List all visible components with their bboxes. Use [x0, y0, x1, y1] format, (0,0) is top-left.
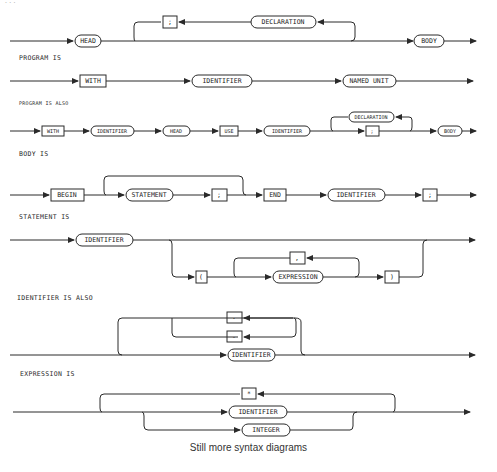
node-label: ;: [428, 191, 432, 199]
node-label: EXPRESSION: [278, 273, 317, 281]
node-label: DECLARATION: [354, 114, 387, 120]
node-label: -: [232, 333, 236, 341]
node-label: DECLARATION: [261, 18, 304, 26]
node-label: BEGIN: [57, 191, 77, 199]
node-label: *: [247, 390, 251, 398]
node-label: ,: [295, 254, 299, 262]
node-label: HEAD: [170, 128, 182, 134]
node-label: .: [232, 313, 236, 321]
node-label: IDENTIFIER: [272, 128, 303, 134]
node-label: ;: [217, 191, 221, 199]
diagram-canvas: HEAD ; DECLARATION BODY WITH IDENTIFIER …: [0, 0, 497, 472]
node-label: IDENTIFIER: [238, 408, 277, 416]
node-label: (: [199, 273, 203, 281]
node-label: ): [390, 273, 394, 281]
node-label: BODY: [421, 37, 437, 45]
node-label: IDENTIFIER: [84, 236, 123, 244]
node-label: WITH: [85, 77, 101, 85]
node-label: IDENTIFIER: [97, 128, 128, 134]
node-label: WITH: [47, 128, 59, 134]
node-label: END: [269, 191, 281, 199]
node-label: IDENTIFIER: [202, 77, 241, 85]
syntax-diagrams-figure: HEAD ; DECLARATION BODY WITH IDENTIFIER …: [0, 0, 497, 472]
node-label: HEAD: [80, 37, 96, 45]
node-label: STATEMENT: [131, 191, 166, 199]
heading-identifier-is-also: IDENTIFIER IS ALSO: [17, 294, 93, 302]
heading-program-is-also: PROGRAM IS ALSO: [19, 100, 69, 106]
cutoff-label: ...: [4, 0, 17, 5]
node-label: IDENTIFIER: [336, 191, 375, 199]
diagram-4-statement-is: [10, 234, 475, 283]
node-label: ;: [168, 18, 172, 26]
heading-program-is: PROGRAM IS: [19, 54, 61, 62]
heading-expression-is: EXPRESSION IS: [20, 370, 75, 378]
node-label: USE: [224, 128, 233, 134]
node-label: IDENTIFIER: [231, 351, 270, 359]
node-label: NAMED UNIT: [349, 77, 388, 85]
figure-caption: Still more syntax diagrams: [0, 442, 497, 453]
heading-body-is: BODY IS: [19, 150, 49, 158]
diagram-2-program-is-also: [10, 112, 476, 136]
heading-statement-is: STATEMENT IS: [19, 213, 70, 221]
node-label: ;: [370, 128, 373, 134]
diagram-3-body-is: [10, 176, 476, 201]
node-label: INTEGER: [252, 426, 279, 434]
node-label: BODY: [444, 128, 456, 134]
